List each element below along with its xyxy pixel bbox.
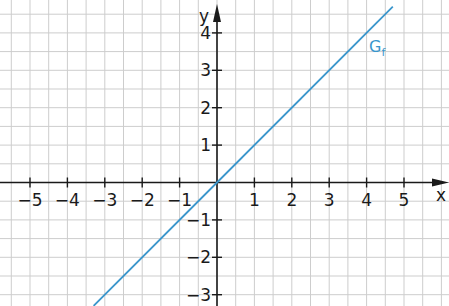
x-axis-label: x bbox=[436, 185, 446, 205]
x-tick-label: 1 bbox=[249, 190, 260, 210]
x-tick-label: 5 bbox=[399, 190, 410, 210]
x-tick-label: 4 bbox=[361, 190, 372, 210]
y-axis-arrow-icon bbox=[213, 4, 221, 22]
y-tick-label: 2 bbox=[200, 98, 211, 118]
graph-label: Gf bbox=[369, 37, 386, 59]
y-tick-label: −2 bbox=[186, 247, 211, 267]
y-tick-label: 3 bbox=[200, 60, 211, 80]
x-tick-label: 2 bbox=[286, 190, 297, 210]
x-tick-label: −4 bbox=[55, 190, 80, 210]
x-tick-label: −5 bbox=[17, 190, 42, 210]
x-tick-label: 3 bbox=[324, 190, 335, 210]
y-tick-label: −1 bbox=[186, 210, 211, 230]
x-tick-label: −2 bbox=[130, 190, 155, 210]
x-tick-label: −1 bbox=[167, 190, 192, 210]
y-tick-label: 1 bbox=[200, 135, 211, 155]
y-tick-label: −3 bbox=[186, 285, 211, 305]
y-axis-label: y bbox=[199, 6, 209, 26]
x-tick-label: −3 bbox=[92, 190, 117, 210]
function-graph: −5−4−3−2−112345−3−2−11234 x y Gf bbox=[0, 0, 449, 306]
